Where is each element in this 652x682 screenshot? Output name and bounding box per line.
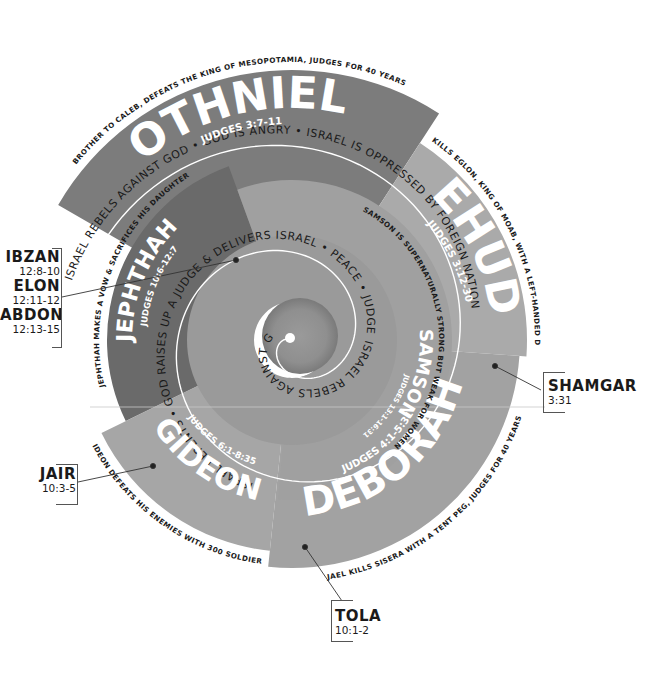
bracket-shamgar (543, 372, 565, 413)
bracket-tola (331, 600, 353, 642)
leader-dot-jair (150, 463, 155, 468)
judges-cycle-spiral-diagram: ISRAEL REBELS AGAINST GOD • GOD IS ANGRY… (0, 0, 652, 682)
minor-judge-elon: ELON (0, 278, 60, 294)
minor-judge-abdon: ABDON (0, 307, 60, 323)
leader-dot-shamgar (492, 363, 497, 368)
leader-dot-tola (302, 544, 307, 549)
minor-judge-ibzan: IBZAN (0, 249, 60, 265)
bracket-jair (56, 464, 78, 505)
spiral-center-well (262, 298, 338, 374)
minor-judge-abdon-ref: 12:13-15 (0, 323, 60, 336)
callout-ibzan-elon-abdon: IBZAN 12:8-10 ELON 12:11-12 ABDON 12:13-… (0, 249, 60, 336)
leader-dot-ibzan-elon-abdon (233, 257, 238, 262)
bracket-ibzan-elon-abdon (52, 248, 62, 348)
spiral-end-dot (285, 333, 295, 343)
